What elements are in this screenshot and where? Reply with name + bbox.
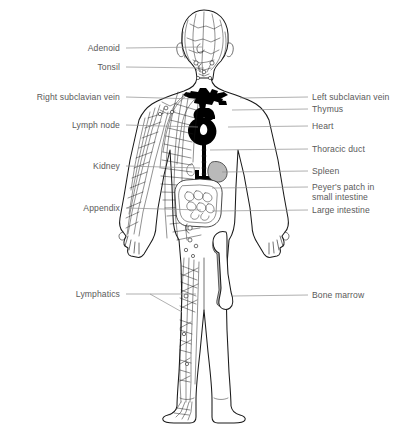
label-heart: Heart — [312, 121, 334, 131]
appendix-node — [188, 226, 192, 230]
label-thoracic-duct: Thoracic duct — [312, 144, 365, 154]
label-peyers-patch-line2: small intestine — [312, 192, 368, 202]
label-large-intestine: Large intestine — [312, 205, 370, 215]
label-appendix: Appendix — [83, 203, 120, 213]
label-left-subclavian-vein: Left subclavian vein — [312, 92, 390, 102]
label-thymus: Thymus — [312, 104, 343, 114]
label-bone-marrow: Bone marrow — [312, 290, 365, 300]
leader-bone-marrow — [233, 295, 308, 296]
labels-left-group: Adenoid Tonsil Right subclavian vein Lym… — [37, 43, 121, 299]
leader-tonsil — [126, 67, 204, 68]
leader-lymphatics-b — [150, 294, 182, 312]
label-right-subclavian-vein: Right subclavian vein — [37, 92, 120, 102]
label-lymph-node: Lymph node — [72, 120, 120, 130]
label-adenoid: Adenoid — [88, 43, 120, 53]
leader-left-subclavian-vein — [240, 97, 308, 98]
anatomy-illustration: Adenoid Tonsil Right subclavian vein Lym… — [0, 0, 408, 426]
label-peyers-patch-line1: Peyer's patch in — [312, 182, 375, 192]
label-spleen: Spleen — [312, 166, 339, 176]
label-tonsil: Tonsil — [97, 62, 120, 72]
lymphatic-system-diagram: Adenoid Tonsil Right subclavian vein Lym… — [0, 0, 408, 426]
label-lymphatics: Lymphatics — [76, 289, 120, 299]
label-kidney: Kidney — [93, 161, 120, 171]
labels-right-group: Left subclavian vein Thymus Heart Thorac… — [312, 92, 390, 300]
